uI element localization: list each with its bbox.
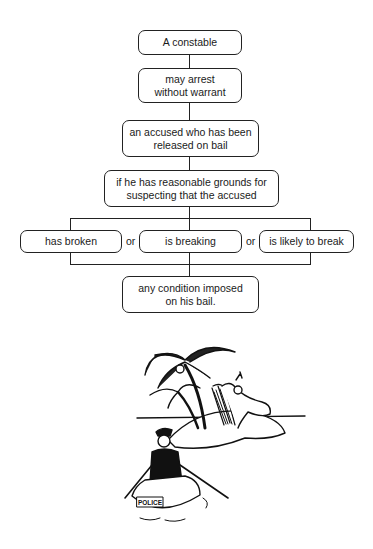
boat-label: POLICE [138,499,163,506]
cartoon-illustration: POLICE [0,0,373,549]
man-head [234,386,242,394]
palm-leaves [145,348,235,389]
island [168,411,285,448]
drink-glass [236,372,242,380]
policeman-head [158,435,170,447]
coconut [176,365,184,373]
